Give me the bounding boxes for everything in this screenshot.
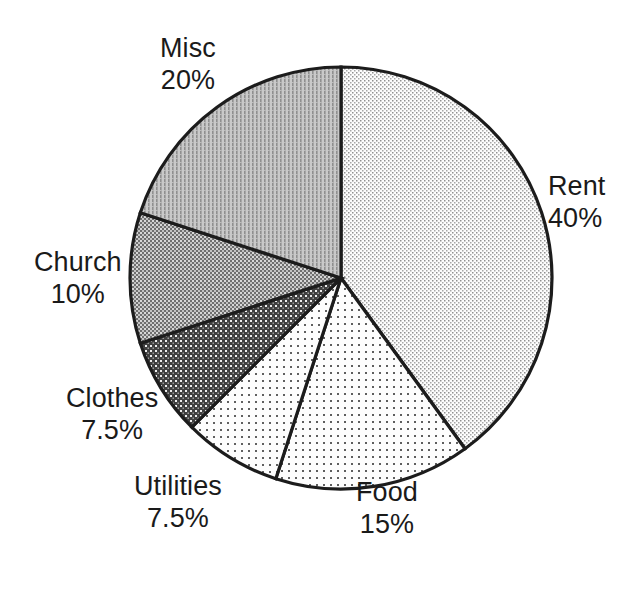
pie-label-misc-name: Misc bbox=[160, 32, 216, 64]
pie-slices-group bbox=[130, 67, 552, 489]
pie-label-food-name: Food bbox=[356, 476, 418, 508]
pie-label-food-value: 15% bbox=[356, 508, 418, 540]
pie-chart: Misc 20% Rent 40% Church 10% Clothes 7.5… bbox=[0, 0, 630, 591]
pie-label-utilities: Utilities 7.5% bbox=[134, 470, 222, 534]
pie-label-clothes-value: 7.5% bbox=[66, 414, 158, 446]
pie-label-church-value: 10% bbox=[34, 278, 122, 310]
pie-label-food: Food 15% bbox=[356, 476, 418, 540]
pie-label-misc: Misc 20% bbox=[160, 32, 216, 96]
pie-label-church: Church 10% bbox=[34, 246, 122, 310]
pie-label-misc-value: 20% bbox=[160, 64, 216, 96]
pie-label-clothes: Clothes 7.5% bbox=[66, 382, 158, 446]
pie-label-utilities-name: Utilities bbox=[134, 470, 222, 502]
pie-label-clothes-name: Clothes bbox=[66, 382, 158, 414]
pie-label-rent: Rent 40% bbox=[548, 170, 605, 234]
pie-label-utilities-value: 7.5% bbox=[134, 502, 222, 534]
pie-label-rent-value: 40% bbox=[548, 202, 605, 234]
pie-label-rent-name: Rent bbox=[548, 170, 605, 202]
pie-label-church-name: Church bbox=[34, 246, 122, 278]
